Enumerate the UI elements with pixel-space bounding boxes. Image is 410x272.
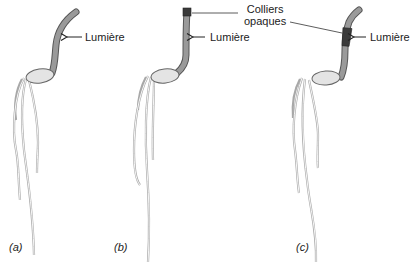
opaque-collars-label: Colliers opaques [244,3,286,27]
panel-a-light-label: Lumière [85,31,125,43]
panel-c-label: (c) [296,241,309,253]
panel-c-light-label: Lumière [370,31,410,43]
panel-a-label: (a) [9,241,22,253]
panel-b-seedling [134,8,191,262]
panel-a-seedling [14,12,76,255]
panel-c-opaque-collar [341,28,352,47]
opaque-collars-line1: Colliers [244,3,286,15]
panel-b-light-label: Lumière [210,31,250,43]
collar-leader-c [290,22,342,33]
panel-b-roots [134,76,154,262]
opaque-collars-line2: opaques [244,15,286,27]
panel-b-opaque-collar [183,8,191,16]
panel-c-seedling [293,10,359,262]
panel-b-label: (b) [114,241,127,253]
